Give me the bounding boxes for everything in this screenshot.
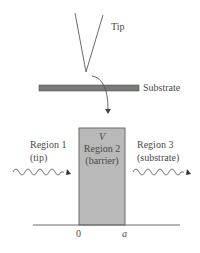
region1-subtitle: (tip): [30, 152, 47, 164]
region3-subtitle: (substrate): [137, 152, 179, 164]
region2-subtitle: (barrier): [79, 155, 125, 167]
region2-title: Region 2: [79, 143, 125, 155]
substrate-label: Substrate: [143, 82, 180, 94]
region3-title: Region 3: [137, 139, 173, 151]
substrate-bar: [39, 85, 139, 91]
transmitted-wave-icon: [133, 169, 191, 175]
axis-end-label: a: [122, 228, 127, 240]
tip-label: Tip: [111, 21, 125, 33]
potential-symbol: V: [79, 131, 125, 143]
diagram-canvas: [0, 0, 200, 253]
incident-wave-icon: [13, 169, 71, 175]
zoom-arrow-icon: [92, 76, 111, 114]
axis-origin-label: 0: [76, 228, 81, 240]
region1-title: Region 1: [30, 139, 66, 151]
stm-tip-icon: [75, 13, 103, 72]
region2-label: V Region 2 (barrier): [79, 131, 125, 167]
